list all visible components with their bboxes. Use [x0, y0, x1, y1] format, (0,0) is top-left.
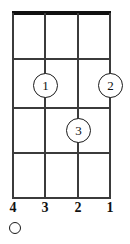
- fret-line-2: [12, 107, 111, 109]
- finger-dot-1[interactable]: 1: [33, 73, 58, 98]
- string-line-4: [12, 13, 14, 199]
- string-line-1: [109, 13, 111, 199]
- string-number-label-2: 2: [68, 201, 88, 215]
- open-string-marker-4[interactable]: [9, 222, 21, 234]
- string-number-label-4: 4: [3, 201, 23, 215]
- finger-dot-2[interactable]: 2: [98, 73, 123, 98]
- chord-diagram: 1 2 3 4 3 2 1: [0, 0, 130, 244]
- nut-bar: [12, 11, 111, 15]
- finger-dot-label-1: 1: [42, 79, 49, 92]
- fret-line-4: [12, 197, 111, 199]
- string-line-3: [44, 13, 46, 199]
- finger-dot-label-2: 2: [107, 79, 114, 92]
- finger-dot-3[interactable]: 3: [66, 118, 91, 143]
- string-number-label-1: 1: [100, 201, 120, 215]
- string-number-label-3: 3: [35, 201, 55, 215]
- finger-dot-label-3: 3: [75, 124, 82, 137]
- fret-line-3: [12, 152, 111, 154]
- fret-line-1: [12, 58, 111, 60]
- string-line-2: [77, 13, 79, 199]
